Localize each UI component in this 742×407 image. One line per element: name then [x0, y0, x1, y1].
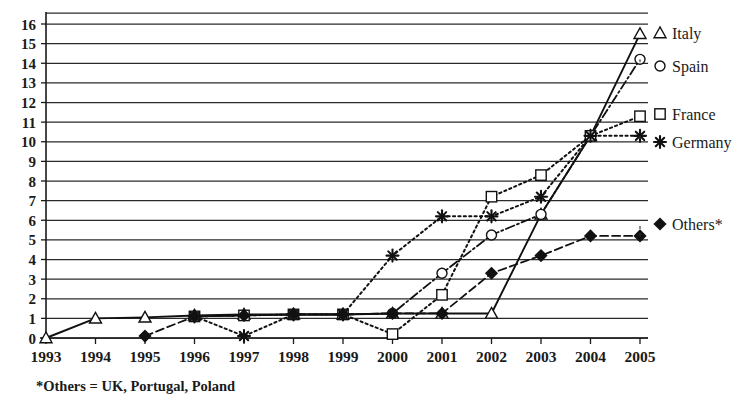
legend-marker-others — [654, 218, 665, 229]
x-tick-label-2002: 2002 — [476, 348, 507, 365]
marker-france-6 — [486, 192, 496, 202]
x-tick-label-2000: 2000 — [377, 348, 408, 365]
marker-spain-7 — [536, 209, 546, 219]
y-tick-label-3: 3 — [29, 272, 37, 288]
x-tick-label-2003: 2003 — [526, 348, 557, 365]
x-tick-label-1999: 1999 — [328, 348, 359, 365]
marker-france-9 — [635, 111, 645, 121]
x-tick-label-1993: 1993 — [31, 348, 62, 365]
y-tick-label-0: 0 — [29, 331, 37, 347]
x-tick-label-1996: 1996 — [179, 348, 210, 365]
y-tick-label-8: 8 — [29, 174, 37, 190]
legend-label-germany: Germany — [672, 134, 732, 152]
series-line-france — [195, 116, 641, 334]
legend-label-others: Others* — [672, 216, 723, 233]
y-tick-label-6: 6 — [29, 213, 37, 229]
marker-germany-7 — [535, 191, 547, 203]
x-axis-tick-labels: 1993199419951996199719981999200020012002… — [31, 348, 656, 365]
y-tick-label-10: 10 — [21, 134, 36, 150]
legend-label-france: France — [672, 106, 716, 123]
y-tick-label-7: 7 — [29, 193, 37, 209]
y-tick-label-12: 12 — [21, 95, 36, 111]
legend-marker-germany — [654, 136, 666, 148]
legend-label-spain: Spain — [672, 58, 708, 76]
marker-france-4 — [387, 329, 397, 339]
legend-marker-italy — [654, 27, 666, 38]
chart-container: 012345678910111213141516 199319941995199… — [0, 0, 742, 407]
marker-france-5 — [437, 290, 447, 300]
y-tick-label-5: 5 — [29, 232, 37, 248]
x-tick-label-2005: 2005 — [625, 348, 656, 365]
marker-others-7 — [486, 268, 497, 279]
marker-spain-5 — [437, 268, 447, 278]
marker-germany-1 — [238, 330, 250, 342]
data-markers — [40, 28, 646, 343]
marker-france-7 — [536, 170, 546, 180]
marker-germany-8 — [585, 130, 597, 142]
legend-labels: ItalySpainFranceGermanyOthers* — [654, 25, 732, 233]
marker-germany-9 — [634, 130, 646, 142]
line-chart: 012345678910111213141516 199319941995199… — [0, 0, 742, 407]
x-tick-label-2004: 2004 — [575, 348, 606, 365]
y-tick-label-13: 13 — [21, 75, 36, 91]
series-line-spain — [195, 59, 641, 316]
legend-marker-spain — [655, 61, 665, 71]
y-tick-label-1: 1 — [29, 311, 37, 327]
legend-marker-france — [655, 109, 665, 119]
y-tick-label-15: 15 — [21, 36, 36, 52]
x-tick-label-1998: 1998 — [278, 348, 309, 365]
y-tick-label-16: 16 — [21, 17, 37, 33]
y-tick-label-14: 14 — [21, 56, 37, 72]
marker-germany-4 — [387, 250, 399, 262]
legend-label-italy: Italy — [672, 25, 701, 43]
y-tick-label-9: 9 — [29, 154, 37, 170]
marker-spain-6 — [487, 230, 497, 240]
series-line-italy — [46, 34, 640, 338]
data-series — [46, 34, 640, 338]
x-tick-label-1994: 1994 — [80, 348, 111, 365]
marker-others-0 — [139, 330, 150, 341]
y-tick-label-2: 2 — [29, 291, 37, 307]
y-tick-label-11: 11 — [22, 115, 36, 131]
y-tick-label-4: 4 — [29, 252, 37, 268]
marker-germany-6 — [486, 210, 498, 222]
y-axis-tick-labels: 012345678910111213141516 — [21, 17, 37, 347]
marker-germany-5 — [436, 210, 448, 222]
x-tick-label-2001: 2001 — [427, 348, 458, 365]
x-tick-label-1995: 1995 — [130, 348, 161, 365]
marker-italy-12 — [634, 28, 646, 39]
x-tick-label-1997: 1997 — [229, 348, 260, 365]
footnote-label: *Others = UK, Portugal, Poland — [36, 378, 235, 394]
series-line-germany — [195, 136, 641, 336]
